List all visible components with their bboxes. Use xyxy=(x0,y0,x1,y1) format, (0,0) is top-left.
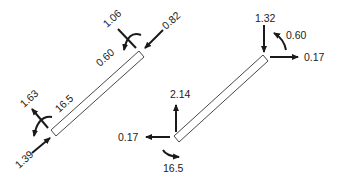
left-top-perpendicular-label: 1.06 xyxy=(100,7,123,30)
right-top-moment-arrow xyxy=(274,33,286,50)
left-bottom-perpendicular-label: 1.63 xyxy=(17,87,40,110)
diagram-canvas: 0.82 1.06 0.60 16.5 1.63 1.39 1.32 0.60 … xyxy=(0,0,338,185)
left-bottom-perpendicular-force xyxy=(32,109,52,136)
right-bottom-vertical-label: 2.14 xyxy=(170,88,191,100)
left-top-perpendicular-force xyxy=(118,29,141,50)
left-bottom-axial-force-arrow xyxy=(32,138,50,153)
left-top-axial-force-arrow xyxy=(145,30,163,48)
right-top-moment-label: 0.60 xyxy=(286,29,307,41)
right-top-horizontal-label: 0.17 xyxy=(304,51,325,63)
left-shear-label: 0.60 xyxy=(93,46,116,69)
left-top-axial-label: 0.82 xyxy=(159,9,182,32)
left-bottom-axial-label: 1.39 xyxy=(12,148,35,171)
right-top-vertical-label: 1.32 xyxy=(255,12,276,24)
right-bottom-horizontal-label: 0.17 xyxy=(118,131,139,143)
right-bottom-moment-arrow xyxy=(163,150,179,157)
right-bottom-moment-label: 16.5 xyxy=(163,162,184,174)
